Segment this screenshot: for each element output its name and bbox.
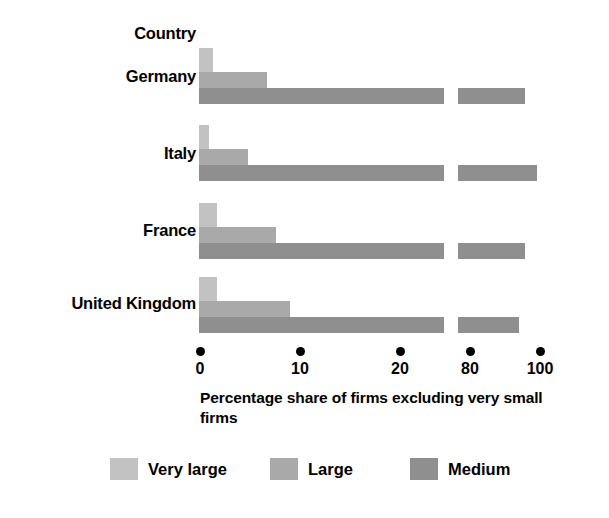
x-tick-dot-0 bbox=[196, 347, 205, 356]
axis-break-italy bbox=[444, 165, 458, 181]
category-label-united-kingdom: United Kingdom bbox=[71, 295, 196, 312]
axis-break-united-kingdom bbox=[444, 317, 458, 333]
bar-segment-france-large bbox=[199, 227, 276, 243]
x-axis-title: Percentage share of firms excluding very… bbox=[200, 388, 560, 429]
legend: Very large Large Medium bbox=[110, 455, 510, 495]
category-axis-header: Country bbox=[134, 25, 196, 42]
bar-segment-france-very-large bbox=[199, 203, 217, 227]
legend-label-medium: Medium bbox=[448, 459, 510, 480]
x-tick-label-0: 0 bbox=[175, 361, 225, 377]
category-label-italy: Italy bbox=[164, 145, 196, 162]
legend-label-very-large: Very large bbox=[148, 459, 227, 480]
legend-swatch-medium-icon bbox=[410, 458, 438, 480]
category-label-france: France bbox=[143, 222, 196, 239]
x-tick-label-10: 10 bbox=[275, 361, 325, 377]
axis-break-france bbox=[444, 243, 458, 259]
legend-label-large: Large bbox=[308, 459, 353, 480]
bar-segment-united-kingdom-large bbox=[199, 301, 290, 317]
x-tick-dot-80 bbox=[466, 347, 475, 356]
bar-segment-germany-medium bbox=[199, 88, 525, 104]
chart-container: Country Germany Italy France United King… bbox=[0, 0, 609, 518]
bar-segment-germany-large bbox=[199, 72, 267, 88]
bar-segment-united-kingdom-very-large bbox=[199, 277, 217, 301]
axis-break-germany bbox=[444, 88, 458, 104]
x-tick-label-20: 20 bbox=[375, 361, 425, 377]
bar-segment-italy-large bbox=[199, 149, 248, 165]
x-tick-dot-100 bbox=[536, 347, 545, 356]
x-tick-dot-20 bbox=[396, 347, 405, 356]
bar-segment-italy-very-large bbox=[199, 125, 209, 149]
x-tick-label-80: 80 bbox=[445, 361, 495, 377]
x-tick-dot-10 bbox=[296, 347, 305, 356]
category-label-germany: Germany bbox=[126, 68, 196, 85]
legend-swatch-very-large-icon bbox=[110, 458, 138, 480]
x-tick-label-100: 100 bbox=[515, 361, 565, 377]
bar-segment-germany-very-large bbox=[199, 48, 213, 72]
legend-swatch-large-icon bbox=[270, 458, 298, 480]
bar-segment-france-medium bbox=[199, 243, 525, 259]
bar-segment-united-kingdom-medium bbox=[199, 317, 519, 333]
bar-segment-italy-medium bbox=[199, 165, 537, 181]
